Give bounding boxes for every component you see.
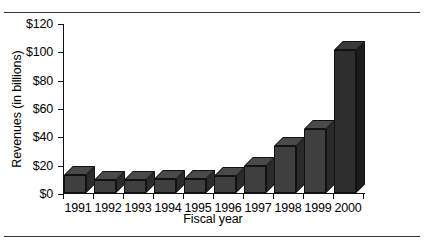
y-tick-label: $60 xyxy=(33,102,53,116)
x-tick xyxy=(213,194,214,199)
bar-2000 xyxy=(334,50,356,193)
y-axis-title-text: Revenues (in billions) xyxy=(10,50,24,167)
bar-1997 xyxy=(244,166,266,193)
bar-1991 xyxy=(64,175,86,193)
y-tick: $60 xyxy=(58,109,63,110)
y-tick: $80 xyxy=(58,81,63,82)
bar-front-face xyxy=(94,180,116,193)
bar-front-face xyxy=(334,50,356,193)
x-tick xyxy=(93,194,94,199)
y-tick: $40 xyxy=(58,137,63,138)
y-axis-line xyxy=(63,24,64,194)
x-tick xyxy=(63,194,64,199)
x-tick xyxy=(363,194,364,199)
x-tick xyxy=(333,194,334,199)
x-tick xyxy=(123,194,124,199)
x-tick xyxy=(243,194,244,199)
x-tick xyxy=(183,194,184,199)
bar-1993 xyxy=(124,180,146,193)
x-axis-line xyxy=(63,193,365,194)
y-tick-label: $0 xyxy=(39,187,53,201)
y-tick-label: $80 xyxy=(33,74,53,88)
bar-1995 xyxy=(184,179,206,193)
bar-front-face xyxy=(184,179,206,193)
y-tick-label: $100 xyxy=(26,45,53,59)
bar-front-face xyxy=(214,176,236,193)
figure-top-rule xyxy=(4,12,420,13)
bar-1999 xyxy=(304,129,326,193)
x-tick xyxy=(273,194,274,199)
y-axis-title: Revenues (in billions) xyxy=(8,24,26,194)
bar-front-face xyxy=(304,129,326,193)
y-tick-label: $120 xyxy=(26,17,53,31)
y-tick-label: $20 xyxy=(33,159,53,173)
bar-front-face xyxy=(244,166,266,193)
x-tick xyxy=(153,194,154,199)
bar-1994 xyxy=(154,179,176,193)
figure-bottom-rule xyxy=(4,236,420,237)
y-tick: $20 xyxy=(58,166,63,167)
x-axis-title: Fiscal year xyxy=(63,212,363,226)
bar-1996 xyxy=(214,176,236,193)
bar-front-face xyxy=(64,175,86,193)
bar-front-face xyxy=(274,146,296,193)
y-tick: $120 xyxy=(58,24,63,25)
bar-1992 xyxy=(94,180,116,193)
x-tick xyxy=(303,194,304,199)
revenue-bar-chart-figure: Revenues (in billions) $0$20$40$60$80$10… xyxy=(0,0,424,246)
bar-1998 xyxy=(274,146,296,193)
bar-front-face xyxy=(124,180,146,193)
plot-area: $0$20$40$60$80$100$120 19911992199319941… xyxy=(63,24,363,194)
bar-front-face xyxy=(154,179,176,193)
y-tick: $100 xyxy=(58,52,63,53)
y-tick-label: $40 xyxy=(33,130,53,144)
bar-side-face xyxy=(356,41,365,193)
